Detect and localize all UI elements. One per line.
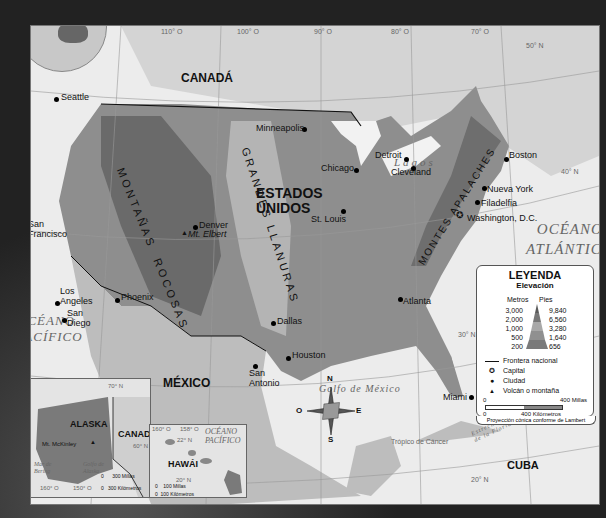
hawaii-scale-miles: 0 100 Millas (155, 483, 186, 489)
city-los-angeles[interactable]: Los Angeles (60, 286, 100, 306)
legend-item-city: ●Ciudad (485, 376, 559, 386)
city-dot (404, 157, 409, 162)
legend-item-mountain: ▲Volcán o montaña (485, 386, 559, 396)
alaska-lon150: 150° O (73, 485, 92, 491)
hawaii-title: HAWÁI (168, 459, 198, 469)
hawaii-scale-km: 0 100 Kilómetros (155, 491, 194, 497)
elevation-pyramid (525, 304, 549, 350)
legend-scale-zero-mi: 0 (483, 397, 486, 403)
legend-projection: Proyección cónica conforme de Lambert (476, 416, 596, 425)
city-san-diego[interactable]: San Diego (67, 308, 97, 328)
grid-lat30: 30° N (458, 331, 476, 338)
city-phoenix[interactable]: Phoenix (121, 292, 154, 302)
legend-col-meters: Metros (507, 296, 528, 303)
city-chicago[interactable]: Chicago (321, 163, 354, 173)
city-cleveland[interactable]: Cleveland (391, 167, 431, 177)
mountain-mckinley[interactable]: Mt. McKinley (42, 441, 76, 447)
city-minneapolis[interactable]: Minneapolis (256, 123, 304, 133)
compass-e: E (356, 406, 361, 415)
city-dot (286, 356, 291, 361)
label-mexico: MÉXICO (163, 376, 210, 390)
city-dot (271, 321, 276, 326)
legend-title: LEYENDA (477, 269, 593, 281)
grid-lat50: 50° N (526, 42, 544, 49)
legend-scale-miles: 400 Millas (560, 397, 587, 403)
city-san-francisco[interactable]: San Francisco (30, 219, 64, 239)
city-dallas[interactable]: Dallas (277, 316, 302, 326)
alaska-bering: Mar deBering (34, 461, 52, 475)
grid-lon80: 80° O (391, 28, 409, 35)
triangle-icon: ▲ (181, 229, 188, 236)
city-miami[interactable]: Miami (443, 392, 467, 402)
legend-col-feet: Pies (539, 296, 553, 303)
alaska-title: ALASKA (70, 419, 108, 429)
inset-alaska: ALASKA CANADÁ Mt. McKinley ▲ Mar deBerin… (30, 378, 151, 498)
grid-lon90: 90° O (314, 28, 332, 35)
city-dot (115, 298, 120, 303)
star-icon: ✪ (456, 210, 464, 220)
compass-o: O (296, 406, 302, 415)
hawaii-ocean: OCÉANOPACÍFICO (205, 427, 240, 445)
triangle-icon: ▲ (485, 386, 499, 396)
city-nueva-york[interactable]: Nueva York (487, 184, 533, 194)
legend-item-capital: ✪Capital (485, 366, 559, 376)
city-houston[interactable]: Houston (292, 350, 326, 360)
grid-lat40: 40° N (561, 168, 579, 175)
grid-lon100: 100° O (237, 28, 259, 35)
alaska-scale-km: 0 300 Kilómetros (101, 485, 141, 491)
inset-hawaii: 160° O 158° O 22° N 20° N OCÉANOPACÍFICO… (149, 424, 247, 498)
legend-subtitle: Elevación (477, 281, 593, 290)
alaska-lat60: 60° N (133, 443, 148, 449)
label-canada: CANADÁ (181, 71, 233, 85)
mountain-elbert[interactable]: Mt. Elbert (188, 229, 227, 239)
dot-icon: ● (485, 376, 499, 386)
hawaii-lon158: 158° O (180, 426, 199, 432)
city-seattle[interactable]: Seattle (61, 92, 89, 102)
city-dot (469, 395, 474, 400)
legend-box: LEYENDA Elevación Metros Pies 3,0002,000… (476, 265, 594, 417)
triangle-icon: ▲ (90, 439, 96, 445)
hawaii-lat22: 22° N (177, 437, 192, 443)
star-icon: ✪ (485, 366, 499, 376)
alaska-lon160: 160° O (40, 485, 59, 491)
legend-scale-bar (485, 405, 563, 410)
city-dot (354, 168, 359, 173)
city-atlanta[interactable]: Atlanta (403, 296, 431, 306)
line-icon (485, 361, 499, 362)
city-filadelfia[interactable]: Filadelfia (481, 198, 517, 208)
legend-meters: 3,0002,0001,000500200 (491, 306, 523, 351)
alaska-lat70: 70° N (108, 383, 123, 389)
grid-lon110: 110° O (161, 28, 182, 35)
compass-n: N (327, 374, 333, 383)
grid-lon70: 70° O (471, 28, 489, 35)
city-detroit[interactable]: Detroit (375, 150, 402, 160)
hawaii-lon160: 160° O (152, 426, 171, 432)
compass-s: S (328, 435, 333, 444)
city-washington-dc[interactable]: Washington, D.C. (467, 213, 537, 223)
label-atlantic: OCÉANOATLÁNTICO (526, 219, 600, 259)
compass-rose-icon (301, 381, 361, 441)
city-dot (475, 200, 480, 205)
label-cuba: CUBA (507, 459, 539, 471)
legend-feet: 9,8406,5603,2801,640656 (549, 306, 567, 351)
grid-lat20: 20° N (471, 476, 489, 483)
legend-items: Frontera nacional ✪Capital ●Ciudad ▲Volc… (485, 356, 559, 396)
city-boston[interactable]: Boston (509, 150, 537, 160)
label-tropic: Trópico de Cáncer (391, 438, 448, 445)
city-dot (54, 97, 59, 102)
legend-item-border: Frontera nacional (485, 356, 559, 366)
alaska-scale-miles: 0 300 Millas (101, 473, 135, 479)
city-san-antonio[interactable]: San Antonio (249, 368, 289, 388)
city-st-louis[interactable]: St. Louis (311, 214, 346, 224)
